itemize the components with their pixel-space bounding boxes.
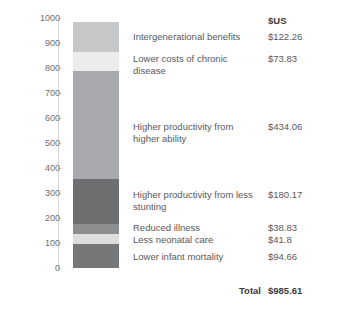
y-axis-tick-label: 800 [45, 64, 60, 73]
segment-label: Higher productivity from higher ability [133, 121, 261, 144]
segment-value: $122.26 [268, 31, 302, 43]
segment-label: Less neonatal care [133, 234, 261, 246]
y-axis-tick-label: 1000 [40, 14, 60, 23]
bar-segment [73, 71, 119, 180]
y-axis-tick-label: 900 [45, 39, 60, 48]
y-axis-tick-label: 400 [45, 164, 60, 173]
value-column-header: $US [268, 15, 286, 26]
y-axis-tick-label: 100 [45, 239, 60, 248]
bar-segment [73, 52, 119, 70]
total-label: Total [205, 285, 261, 296]
bar-segment [73, 22, 119, 53]
segment-label: Lower costs of chronic disease [133, 53, 261, 76]
segment-label: Higher productivity from less stunting [133, 189, 261, 212]
segment-value: $180.17 [268, 189, 302, 201]
stacked-bar-chart: 10009008007006005004003002001000 $US Int… [0, 0, 343, 312]
segment-value: $73.83 [268, 53, 297, 65]
segment-label: Lower infant mortality [133, 251, 261, 263]
bar-segment [73, 244, 119, 268]
y-axis-tick-label: 600 [45, 114, 60, 123]
y-axis-tick-label: 500 [45, 139, 60, 148]
y-axis-tick-label: 200 [45, 214, 60, 223]
y-axis-tick-label: 0 [55, 264, 60, 273]
segment-label: Reduced illness [133, 222, 261, 234]
stacked-bar [73, 18, 119, 268]
segment-value: $94.66 [268, 251, 297, 263]
bar-segment [73, 234, 119, 244]
segment-value: $38.83 [268, 222, 297, 234]
y-axis-tick-label: 300 [45, 189, 60, 198]
segment-label: Intergenerational benefits [133, 31, 261, 43]
total-value: $985.61 [268, 285, 302, 296]
segment-value: $41.8 [268, 234, 292, 246]
y-axis-tick-label: 700 [45, 89, 60, 98]
segment-value: $434.06 [268, 121, 302, 133]
bar-segment [73, 179, 119, 224]
bar-segment [73, 224, 119, 234]
